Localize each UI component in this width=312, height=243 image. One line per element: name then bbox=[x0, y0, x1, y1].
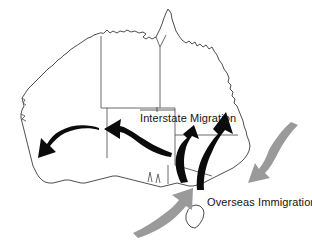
australia-mainland-outline bbox=[21, 9, 250, 187]
tasmania-outline bbox=[186, 205, 204, 228]
label-overseas-immigration: Overseas Immigration bbox=[207, 196, 312, 208]
arrow-overseas-south bbox=[133, 188, 193, 238]
arrow-overseas-east bbox=[248, 122, 298, 183]
australia-migration-map: Interstate Migration Overseas Immigratio… bbox=[0, 0, 312, 243]
label-interstate-migration: Interstate Migration bbox=[140, 112, 236, 124]
